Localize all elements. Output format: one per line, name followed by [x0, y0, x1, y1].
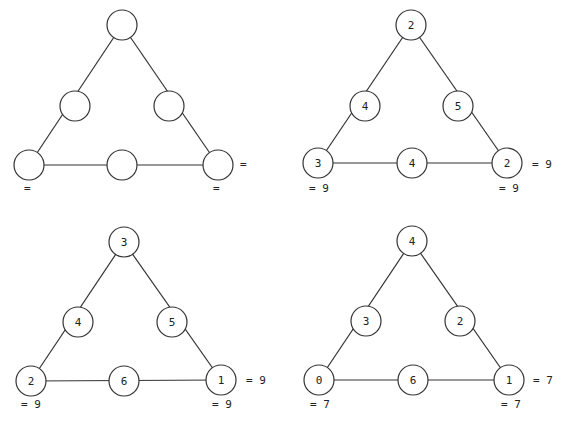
svg-text:0: 0 [316, 374, 323, 387]
triangle-puzzle-1: = = = [14, 10, 247, 195]
svg-text:1: 1 [218, 374, 225, 387]
svg-text:6: 6 [410, 374, 417, 387]
node-mid-left: 3 [351, 306, 381, 336]
bottom-side-sum: = 7 [533, 374, 553, 387]
triangle-puzzles-diagram: = = = 2 4 5 3 4 2 = 9 = 9 = 9 3 4 5 2 6 … [0, 0, 567, 423]
svg-text:2: 2 [408, 19, 415, 32]
node-bottom-left: 0 [304, 365, 334, 395]
svg-text:5: 5 [455, 100, 462, 113]
right-side-sum: = [213, 182, 220, 195]
node-bottom-mid: 4 [397, 148, 427, 178]
bottom-side-sum: = 9 [246, 374, 266, 387]
node-bottom-left [14, 150, 44, 180]
node-mid-right: 5 [443, 91, 473, 121]
svg-text:2: 2 [457, 315, 464, 328]
node-bottom-mid: 6 [398, 365, 428, 395]
node-mid-right: 5 [157, 307, 187, 337]
node-top: 3 [109, 227, 139, 257]
node-mid-right: 2 [445, 306, 475, 336]
right-side-sum: = 7 [501, 398, 521, 411]
triangle-puzzle-4: 4 3 2 0 6 1 = 7 = 7 = 7 [304, 226, 553, 411]
node-bottom-right [203, 150, 233, 180]
svg-text:4: 4 [409, 235, 416, 248]
node-mid-left: 4 [63, 307, 93, 337]
svg-text:3: 3 [363, 315, 370, 328]
svg-text:1: 1 [506, 374, 513, 387]
node-mid-left [60, 91, 90, 121]
left-side-sum: = 9 [309, 182, 329, 195]
node-top: 4 [397, 226, 427, 256]
node-mid-right [154, 91, 184, 121]
svg-text:4: 4 [75, 316, 82, 329]
node-top [107, 10, 137, 40]
svg-text:3: 3 [121, 236, 128, 249]
node-bottom-right: 2 [492, 148, 522, 178]
node-mid-left: 4 [350, 91, 380, 121]
svg-text:5: 5 [169, 316, 176, 329]
bottom-side-sum: = [240, 158, 247, 171]
node-bottom-right: 1 [206, 365, 236, 395]
left-side-sum: = 7 [310, 398, 330, 411]
node-top: 2 [396, 10, 426, 40]
svg-text:2: 2 [28, 375, 35, 388]
svg-text:3: 3 [315, 157, 322, 170]
right-side-sum: = 9 [212, 398, 232, 411]
svg-text:4: 4 [409, 157, 416, 170]
right-side-sum: = 9 [499, 182, 519, 195]
bottom-side-sum: = 9 [532, 158, 552, 171]
triangle-puzzle-2: 2 4 5 3 4 2 = 9 = 9 = 9 [303, 10, 552, 195]
left-side-sum: = 9 [21, 398, 41, 411]
left-side-sum: = [24, 182, 31, 195]
node-bottom-left: 3 [303, 148, 333, 178]
node-bottom-right: 1 [494, 365, 524, 395]
svg-text:6: 6 [121, 375, 128, 388]
node-bottom-mid: 6 [109, 366, 139, 396]
svg-text:4: 4 [362, 100, 369, 113]
node-bottom-left: 2 [16, 366, 46, 396]
triangle-puzzle-3: 3 4 5 2 6 1 = 9 = 9 = 9 [16, 227, 266, 411]
svg-text:2: 2 [504, 157, 511, 170]
node-bottom-mid [107, 150, 137, 180]
